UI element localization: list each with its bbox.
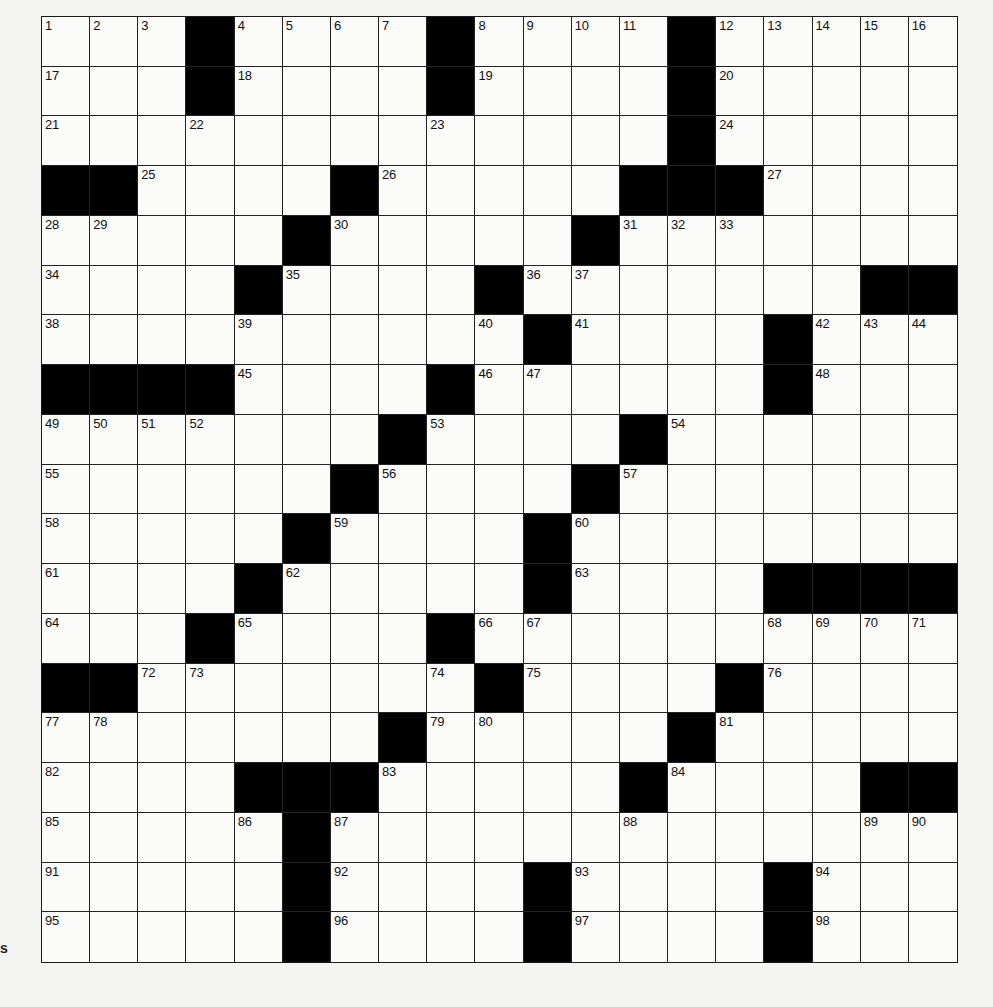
answer-cell[interactable]: 12 — [716, 17, 764, 67]
answer-cell[interactable]: 41 — [572, 315, 620, 365]
answer-cell[interactable]: 28 — [42, 216, 90, 266]
answer-cell[interactable] — [90, 564, 138, 614]
answer-cell[interactable]: 64 — [42, 614, 90, 664]
answer-cell[interactable] — [235, 116, 283, 166]
answer-cell[interactable]: 59 — [331, 514, 379, 564]
answer-cell[interactable] — [813, 116, 861, 166]
answer-cell[interactable] — [861, 216, 909, 266]
answer-cell[interactable]: 77 — [42, 713, 90, 763]
answer-cell[interactable] — [909, 713, 957, 763]
answer-cell[interactable] — [379, 614, 427, 664]
answer-cell[interactable] — [764, 415, 812, 465]
answer-cell[interactable]: 70 — [861, 614, 909, 664]
answer-cell[interactable]: 7 — [379, 17, 427, 67]
answer-cell[interactable]: 43 — [861, 315, 909, 365]
answer-cell[interactable] — [235, 514, 283, 564]
answer-cell[interactable]: 46 — [475, 365, 523, 415]
answer-cell[interactable] — [186, 166, 234, 216]
answer-cell[interactable] — [716, 315, 764, 365]
answer-cell[interactable] — [620, 514, 668, 564]
answer-cell[interactable]: 98 — [813, 912, 861, 962]
answer-cell[interactable] — [813, 664, 861, 714]
answer-cell[interactable] — [813, 514, 861, 564]
answer-cell[interactable]: 81 — [716, 713, 764, 763]
answer-cell[interactable] — [861, 863, 909, 913]
answer-cell[interactable] — [716, 514, 764, 564]
answer-cell[interactable]: 83 — [379, 763, 427, 813]
answer-cell[interactable]: 21 — [42, 116, 90, 166]
answer-cell[interactable] — [331, 116, 379, 166]
answer-cell[interactable] — [909, 514, 957, 564]
answer-cell[interactable]: 56 — [379, 465, 427, 515]
answer-cell[interactable]: 85 — [42, 813, 90, 863]
answer-cell[interactable] — [186, 863, 234, 913]
answer-cell[interactable]: 53 — [427, 415, 475, 465]
answer-cell[interactable]: 92 — [331, 863, 379, 913]
answer-cell[interactable] — [186, 763, 234, 813]
answer-cell[interactable] — [861, 465, 909, 515]
answer-cell[interactable] — [186, 713, 234, 763]
answer-cell[interactable] — [909, 664, 957, 714]
answer-cell[interactable]: 45 — [235, 365, 283, 415]
answer-cell[interactable]: 36 — [524, 266, 572, 316]
answer-cell[interactable] — [620, 863, 668, 913]
answer-cell[interactable] — [764, 216, 812, 266]
answer-cell[interactable] — [764, 116, 812, 166]
answer-cell[interactable] — [138, 116, 186, 166]
answer-cell[interactable] — [909, 912, 957, 962]
answer-cell[interactable] — [475, 763, 523, 813]
answer-cell[interactable] — [427, 266, 475, 316]
answer-cell[interactable]: 2 — [90, 17, 138, 67]
answer-cell[interactable] — [283, 664, 331, 714]
answer-cell[interactable] — [620, 912, 668, 962]
answer-cell[interactable] — [235, 912, 283, 962]
answer-cell[interactable] — [524, 813, 572, 863]
answer-cell[interactable]: 40 — [475, 315, 523, 365]
answer-cell[interactable]: 69 — [813, 614, 861, 664]
answer-cell[interactable] — [813, 713, 861, 763]
answer-cell[interactable] — [716, 266, 764, 316]
answer-cell[interactable]: 22 — [186, 116, 234, 166]
answer-cell[interactable]: 18 — [235, 67, 283, 117]
answer-cell[interactable] — [524, 216, 572, 266]
answer-cell[interactable] — [90, 514, 138, 564]
answer-cell[interactable]: 82 — [42, 763, 90, 813]
answer-cell[interactable] — [764, 67, 812, 117]
answer-cell[interactable] — [620, 614, 668, 664]
answer-cell[interactable] — [909, 216, 957, 266]
answer-cell[interactable] — [909, 863, 957, 913]
answer-cell[interactable] — [861, 116, 909, 166]
answer-cell[interactable]: 66 — [475, 614, 523, 664]
answer-cell[interactable] — [283, 365, 331, 415]
answer-cell[interactable] — [138, 266, 186, 316]
answer-cell[interactable] — [716, 564, 764, 614]
answer-cell[interactable] — [331, 266, 379, 316]
answer-cell[interactable] — [475, 166, 523, 216]
answer-cell[interactable] — [283, 315, 331, 365]
answer-cell[interactable]: 47 — [524, 365, 572, 415]
answer-cell[interactable] — [764, 813, 812, 863]
answer-cell[interactable] — [427, 763, 475, 813]
answer-cell[interactable] — [620, 564, 668, 614]
answer-cell[interactable] — [909, 67, 957, 117]
answer-cell[interactable] — [572, 415, 620, 465]
answer-cell[interactable] — [861, 365, 909, 415]
answer-cell[interactable] — [716, 813, 764, 863]
answer-cell[interactable] — [813, 415, 861, 465]
answer-cell[interactable] — [379, 813, 427, 863]
answer-cell[interactable]: 86 — [235, 813, 283, 863]
answer-cell[interactable] — [138, 514, 186, 564]
answer-cell[interactable] — [379, 564, 427, 614]
answer-cell[interactable] — [668, 266, 716, 316]
answer-cell[interactable] — [138, 713, 186, 763]
answer-cell[interactable] — [524, 763, 572, 813]
answer-cell[interactable] — [475, 116, 523, 166]
answer-cell[interactable] — [909, 116, 957, 166]
answer-cell[interactable]: 89 — [861, 813, 909, 863]
answer-cell[interactable] — [861, 67, 909, 117]
answer-cell[interactable] — [909, 465, 957, 515]
answer-cell[interactable]: 58 — [42, 514, 90, 564]
answer-cell[interactable] — [138, 912, 186, 962]
answer-cell[interactable] — [764, 763, 812, 813]
answer-cell[interactable]: 73 — [186, 664, 234, 714]
